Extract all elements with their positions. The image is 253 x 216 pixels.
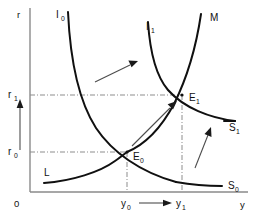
equilibrium-label-E1-base: E [189, 92, 196, 103]
equilibrium-point-E1 [180, 93, 183, 96]
curve-S0 [176, 182, 222, 186]
curve-label-S1-sub: 1 [236, 128, 240, 135]
y-tick-label-r1-base: r [8, 89, 12, 100]
equilibrium-label-E1-sub: 1 [196, 98, 200, 105]
x-tick-label-y1-base: y [176, 198, 181, 209]
curve-label-I1-sub: 1 [151, 27, 155, 34]
economics-diagram: I 0 I 1 M L S 0 S 1 E 0 E 1 r 1 r 0 y 0 … [0, 0, 253, 216]
diagram-canvas: I 0 I 1 M L S 0 S 1 E 0 E 1 r 1 r 0 y 0 … [0, 0, 253, 216]
curve-label-S0-sub: 0 [235, 186, 239, 193]
curve-label-I0-base: I [56, 9, 59, 20]
y-tick-label-r0-sub: 0 [14, 152, 18, 159]
s-shift-arrow-shaft [195, 135, 208, 168]
curve-label-M: M [210, 12, 218, 23]
x-tick-label-y0-base: y [121, 198, 126, 209]
equilibrium-label-E0-sub: 0 [140, 157, 144, 164]
curve-label-I1-base: I [146, 21, 149, 32]
s-shift-arrow-head [205, 127, 212, 137]
y-tick-label-r1-sub: 1 [14, 95, 18, 102]
y-axis-label: r [17, 9, 20, 20]
origin-label: 0 [14, 198, 19, 209]
x-axis-label: y [240, 199, 245, 210]
equilibrium-move-arrow-shaft [132, 108, 170, 146]
curve-label-L: L [44, 167, 50, 178]
is-shift-arrow-shaft [95, 65, 130, 82]
is-shift-arrow-head [128, 61, 138, 68]
y-shift-arrow-head [163, 200, 172, 206]
x-tick-label-y0-sub: 0 [127, 204, 131, 211]
curve-label-S1-base: S [229, 122, 236, 133]
curve-label-I0-sub: 0 [61, 15, 65, 22]
curve-label-S0-base: S [228, 180, 235, 191]
curve-L [44, 152, 127, 183]
curve-I1 [148, 22, 235, 121]
x-tick-label-y1-sub: 1 [182, 204, 186, 211]
equilibrium-point-E0 [125, 150, 128, 153]
y-tick-label-r0-base: r [8, 146, 12, 157]
equilibrium-label-E0-base: E [133, 151, 140, 162]
